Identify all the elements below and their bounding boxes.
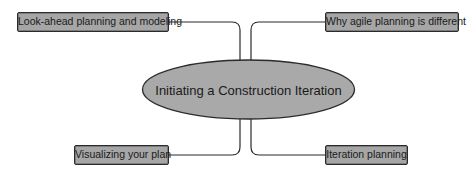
central-topic-label: Initiating a Construction Iteration [142, 60, 355, 120]
branch-visualizing-your-plan[interactable]: Visualizing your plan [74, 145, 169, 165]
branch-label: Why agile planning is different [326, 15, 466, 27]
connector-bottom-left [168, 118, 240, 155]
branch-iteration-planning[interactable]: Iteration planning [325, 145, 408, 165]
branch-look-ahead-planning[interactable]: Look-ahead planning and modeling [17, 12, 169, 32]
branch-label: Visualizing your plan [75, 148, 171, 160]
branch-label: Iteration planning [326, 148, 407, 160]
connector-top-right [251, 22, 325, 62]
branch-why-agile-planning-different[interactable]: Why agile planning is different [325, 12, 459, 32]
connector-bottom-right [251, 118, 325, 155]
connector-top-left [169, 22, 240, 62]
branch-label: Look-ahead planning and modeling [18, 15, 182, 27]
